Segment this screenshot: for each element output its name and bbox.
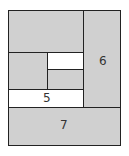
piece-left-mid (8, 52, 48, 90)
label-6: 6 (99, 54, 107, 68)
piece-top (8, 10, 84, 53)
label-5: 5 (43, 91, 51, 105)
label-7: 7 (60, 118, 68, 132)
piece-center-gray (47, 69, 84, 90)
piece-center-white (47, 52, 84, 70)
